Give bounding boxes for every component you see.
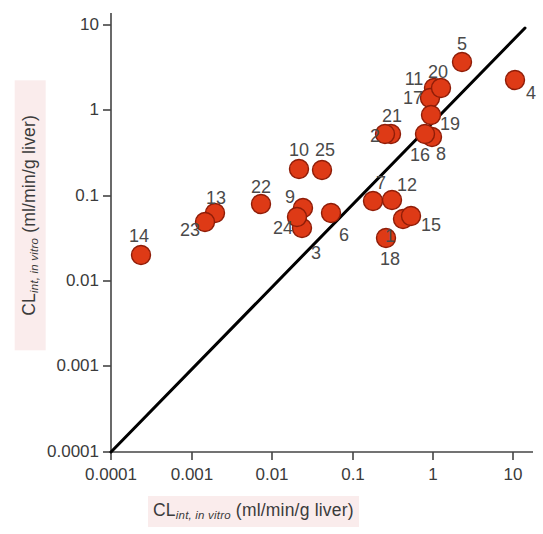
data-point-19 [422,106,441,125]
data-point-10 [290,160,309,179]
data-point-16 [416,125,435,144]
data-point-label-11: 11 [405,69,424,90]
data-point-label-23: 23 [180,220,200,241]
data-point-label-19: 19 [440,114,460,135]
data-point-label-1: 1 [385,226,395,247]
y-tick-1: 1 [90,100,99,120]
scatter-plot-figure: 0.00010.0010.010.1110 1010.10.010.0010.0… [0,0,543,534]
data-point-15 [402,207,421,226]
y-tick-0.001: 0.001 [56,356,99,376]
x-axis-title-subscript: int, in vitro [176,509,231,521]
data-point-label-4: 4 [526,83,536,104]
data-point-label-21: 21 [382,106,402,127]
data-point-label-14: 14 [129,226,149,247]
data-point-label-9: 9 [285,187,295,208]
y-tick-0.01: 0.01 [66,271,99,291]
y-tick-10: 10 [80,15,99,35]
x-tick-1: 1 [428,465,437,485]
data-point-label-12: 12 [397,175,417,196]
data-point-4 [506,71,525,90]
x-tick-0.1: 0.1 [341,465,365,485]
data-point-label-17: 17 [403,88,423,109]
data-point-label-2: 2 [370,126,380,147]
data-point-25 [313,161,332,180]
y-axis-title-subscript: int, in vitro [28,238,40,293]
data-point-label-8: 8 [436,144,446,165]
y-tick-0.1: 0.1 [75,186,99,206]
x-axis-title: CLint, in vitro (ml/min/g liver) [148,496,359,527]
x-axis-title-prefix: CL [153,500,176,520]
data-point-6 [322,204,341,223]
data-point-14 [132,246,151,265]
x-tick-0.0001: 0.0001 [85,465,137,485]
data-point-label-10: 10 [289,140,309,161]
data-point-5 [453,53,472,72]
data-point-label-22: 22 [251,177,271,198]
data-point-label-24: 24 [273,218,293,239]
data-point-label-16: 16 [410,145,430,166]
data-point-label-5: 5 [457,34,467,55]
data-point-label-3: 3 [311,243,321,264]
y-axis-title-suffix: (ml/min/g liver) [19,115,39,238]
data-point-7 [364,192,383,211]
data-point-label-20: 20 [428,62,448,83]
x-tick-0.001: 0.001 [171,465,214,485]
data-point-label-7: 7 [376,173,386,194]
identity-line [111,28,525,452]
data-point-label-13: 13 [206,188,226,209]
y-axis-title: CLint, in vitro (ml/min/g liver) [15,80,46,350]
data-point-label-6: 6 [339,225,349,246]
x-axis-title-suffix: (ml/min/g liver) [231,500,354,520]
x-tick-10: 10 [504,465,523,485]
data-point-label-15: 15 [421,215,441,236]
data-point-label-25: 25 [315,140,335,161]
data-point-label-18: 18 [380,249,400,270]
y-axis-title-prefix: CL [19,293,39,316]
x-tick-0.01: 0.01 [255,465,288,485]
y-tick-0.0001: 0.0001 [47,442,99,462]
